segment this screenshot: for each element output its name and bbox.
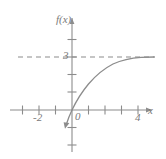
axes-group: [10, 18, 152, 152]
y-axis-label: f(x): [56, 14, 71, 25]
asymptote-value-label: 3: [63, 50, 69, 61]
x-tick-label-neg2: -2: [33, 112, 42, 123]
graph-canvas: [0, 0, 166, 159]
function-graph-figure: f(x) 3 0 -2 4 x: [0, 0, 166, 159]
origin-label: 0: [75, 111, 81, 122]
x-axis-label: x: [148, 105, 153, 116]
x-tick-label-4: 4: [135, 112, 141, 123]
